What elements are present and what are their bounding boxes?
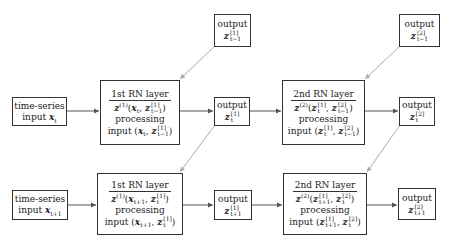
rn-layer2-t-plus-1: 2nd RN layer z(2)(z[1]t+1, z[2]t) proces… [283,173,367,235]
time-series-input-t: time-series input xt [12,97,67,126]
node-label: output [402,193,432,204]
layer-function: z(2)(z[1]t, z[2]t−1) [294,102,352,114]
node-label: time-series [15,194,65,205]
output-z-prev-layer1: output z[1]t−1 [214,14,251,47]
layer-title: 2nd RN layer [291,89,356,101]
output-z-t-layer2: output z[2]t [399,97,435,126]
processing-label: processing [300,205,350,216]
node-label: output [218,194,248,205]
layer-title: 1st RN layer [109,180,170,192]
node-math: z[2]t+1 [408,204,425,216]
node-math: z[2]t−1 [411,30,428,42]
node-math: z[1]t−1 [224,30,241,42]
rn-layer1-t: 1st RN layer z(1)(xt, z[1]t−1) processin… [100,80,180,145]
layer-title: 1st RN layer [109,89,170,101]
rn-layer1-t-plus-1: 1st RN layer z(1)(xt+1, z[1]t) processin… [97,173,183,235]
output-z-prev-layer2: output z[2]t−1 [399,14,440,47]
processing-label: processing [115,205,165,216]
rn-layer2-t: 2nd RN layer z(2)(z[1]t, z[2]t−1) proces… [282,80,365,145]
node-label: time-series [14,101,64,112]
node-math: z[1]t [225,111,240,123]
layer-input: input (xt+1, z[1]t) [105,216,176,228]
node-math: input xt+1 [18,205,61,216]
layer-input: input (xt, z[1]t−1) [108,125,173,137]
layer-input: input (z[1]t, z[2]t−1) [288,125,360,137]
processing-label: processing [115,114,165,125]
layer-function: z(2)(z[1]t+1, z[2]t) [296,193,354,205]
output-z-t-layer1: output z[1]t [214,97,250,126]
node-math: input xt [22,112,57,123]
output-z-t-plus-1-layer2: output z[2]t+1 [398,188,436,220]
node-math: z[2]t [410,111,425,123]
time-series-input-t-plus-1: time-series input xt+1 [12,190,68,220]
layer-function: z(1)(xt+1, z[1]t) [111,193,169,205]
output-z-t-plus-1-layer1: output z[1]t+1 [214,190,252,220]
node-math: z[1]t+1 [224,205,241,217]
layer-title: 2nd RN layer [293,180,358,192]
layer-function: z(1)(xt, z[1]t−1) [114,102,166,114]
layer-input: input (z[1]t+1, z[2]t) [289,216,361,228]
processing-label: processing [299,114,349,125]
